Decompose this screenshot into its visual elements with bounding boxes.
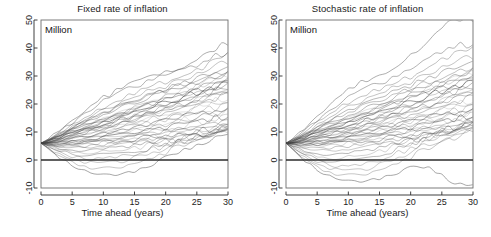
series-line bbox=[41, 83, 228, 143]
y-tick-label: 40 bbox=[24, 43, 34, 53]
x-tick-label: 0 bbox=[38, 197, 43, 207]
y-tick-label: 50 bbox=[24, 15, 34, 25]
y-tick-label: 30 bbox=[24, 71, 34, 81]
unit-label-left: Million bbox=[45, 24, 72, 35]
x-tick-label: 5 bbox=[70, 197, 75, 207]
y-tick-label: 40 bbox=[269, 43, 279, 53]
x-tick-label: 20 bbox=[406, 197, 416, 207]
x-axis-label-left: Time ahead (years) bbox=[0, 207, 245, 219]
x-tick-label: 0 bbox=[283, 197, 288, 207]
x-tick-label: 20 bbox=[161, 197, 171, 207]
y-tick-label: 0 bbox=[269, 157, 279, 162]
x-tick-label: 15 bbox=[374, 197, 384, 207]
x-tick-label: 30 bbox=[223, 197, 233, 207]
y-tick-label: 10 bbox=[24, 127, 34, 137]
plot-svg-right: 051015202530-1001020304050 bbox=[245, 0, 490, 237]
figure-root: Fixed rate of inflation 051015202530-100… bbox=[0, 0, 491, 237]
y-tick-label: 30 bbox=[269, 71, 279, 81]
x-tick-label: 25 bbox=[437, 197, 447, 207]
y-tick-label: -10 bbox=[24, 181, 34, 194]
x-tick-label: 10 bbox=[343, 197, 353, 207]
x-tick-label: 15 bbox=[129, 197, 139, 207]
series-group-left bbox=[41, 43, 228, 176]
unit-label-right: Million bbox=[290, 24, 317, 35]
x-tick-label: 25 bbox=[192, 197, 202, 207]
plot-svg-left: 051015202530-1001020304050 bbox=[0, 0, 245, 237]
y-tick-label: 10 bbox=[269, 127, 279, 137]
y-tick-label: 50 bbox=[269, 15, 279, 25]
x-tick-label: 10 bbox=[98, 197, 108, 207]
panel-stochastic-rate: Stochastic rate of inflation 05101520253… bbox=[245, 0, 490, 237]
y-tick-label: 20 bbox=[269, 99, 279, 109]
y-tick-label: 20 bbox=[24, 99, 34, 109]
x-axis-label-right: Time ahead (years) bbox=[245, 207, 490, 219]
y-tick-label: 0 bbox=[24, 157, 34, 162]
x-tick-label: 5 bbox=[315, 197, 320, 207]
y-tick-label: -10 bbox=[269, 181, 279, 194]
panel-fixed-rate: Fixed rate of inflation 051015202530-100… bbox=[0, 0, 245, 237]
x-tick-label: 30 bbox=[468, 197, 478, 207]
